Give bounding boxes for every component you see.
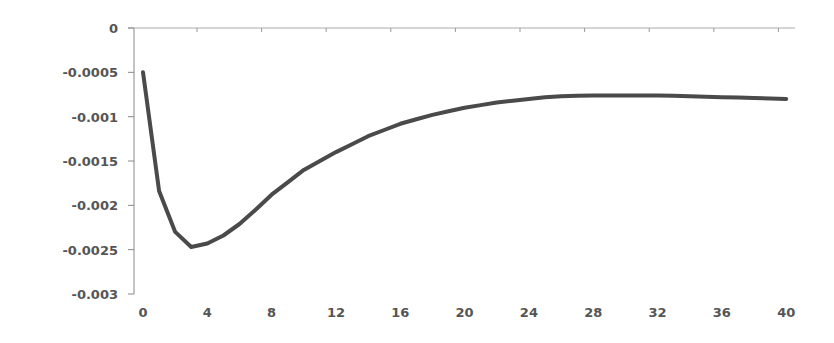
x-tick-label: 24 <box>520 305 538 320</box>
y-axis-labels: 0-0.0005-0.001-0.0015-0.002-0.0025-0.003 <box>62 21 118 302</box>
x-tick-label: 0 <box>138 305 147 320</box>
x-tick-label: 8 <box>267 305 276 320</box>
x-tick-label: 36 <box>713 305 731 320</box>
line-chart: 0-0.0005-0.001-0.0015-0.002-0.0025-0.003… <box>0 0 834 343</box>
series-line <box>143 72 786 247</box>
x-tick-label: 40 <box>777 305 795 320</box>
x-axis-labels: 0481216202428323640 <box>138 305 795 320</box>
x-tick-label: 20 <box>456 305 474 320</box>
y-tick-label: -0.0015 <box>62 154 118 169</box>
y-tick-label: -0.002 <box>71 198 118 213</box>
x-tick-label: 4 <box>203 305 212 320</box>
x-tick-label: 28 <box>584 305 602 320</box>
y-tick-label: -0.0025 <box>62 243 118 258</box>
x-tick-label: 32 <box>649 305 667 320</box>
axes <box>128 28 795 294</box>
y-tick-label: -0.0005 <box>62 65 118 80</box>
x-tick-label: 12 <box>327 305 345 320</box>
y-tick-label: 0 <box>109 21 118 36</box>
y-tick-label: -0.003 <box>71 287 118 302</box>
x-tick-label: 16 <box>391 305 409 320</box>
y-tick-label: -0.001 <box>71 110 118 125</box>
